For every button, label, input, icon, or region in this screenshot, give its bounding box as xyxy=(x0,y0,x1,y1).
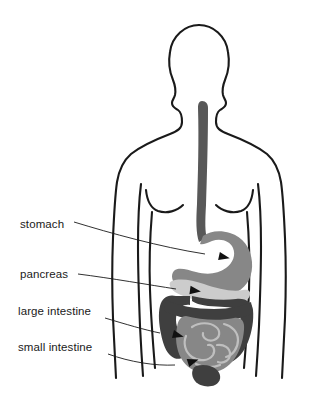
label-small-intestine: small intestine xyxy=(18,341,92,353)
digestive-system-diagram: stomach pancreas large intestine small i… xyxy=(0,0,312,409)
label-pancreas: pancreas xyxy=(20,268,68,280)
right-pectoral-path xyxy=(216,190,253,212)
label-large-intestine: large intestine xyxy=(18,305,91,317)
arrowhead-stomach xyxy=(218,252,231,263)
torso-left-flank-path xyxy=(150,212,155,368)
left-arm-inner-path xyxy=(138,184,143,376)
left-pectoral-path xyxy=(146,190,183,212)
leader-line-stomach xyxy=(74,222,205,254)
right-arm-inner-path xyxy=(256,184,261,376)
leader-line-pancreas xyxy=(78,274,176,289)
esophagus-shape xyxy=(196,101,208,242)
diagram-canvas: stomach pancreas large intestine small i… xyxy=(0,0,312,409)
label-stomach: stomach xyxy=(20,218,64,230)
